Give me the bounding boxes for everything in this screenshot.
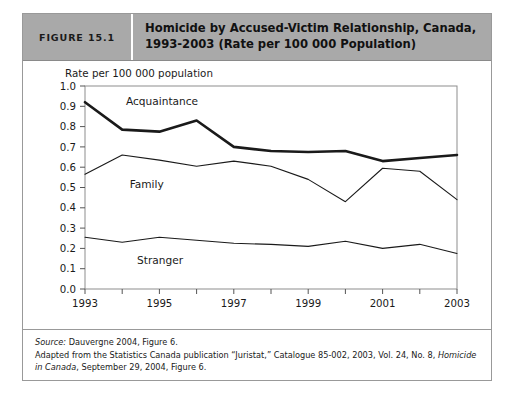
figure-title: Homicide by Accused-Victim Relationship,…: [133, 14, 491, 60]
source-line: Source: Dauvergne 2004, Figure 6.: [35, 337, 479, 349]
adapted-text-part-2: , September 29, 2004, Figure 6.: [76, 362, 206, 372]
y-tick-label: 0.9: [60, 101, 76, 112]
figure-title-line-2: 1993-2003 (Rate per 100 000 Population): [145, 37, 481, 53]
y-tick-label: 0.7: [60, 142, 76, 153]
figure-number-label: FIGURE 15.1: [23, 14, 133, 60]
x-tick-label: 1993: [72, 298, 98, 309]
x-tick-label: 2001: [370, 298, 396, 309]
x-tick-label: 1999: [295, 298, 321, 309]
series-line-stranger: [85, 237, 457, 253]
figure-container: FIGURE 15.1 Homicide by Accused-Victim R…: [22, 13, 492, 381]
figure-footer: Source: Dauvergne 2004, Figure 6. Adapte…: [23, 329, 491, 380]
series-label-stranger: Stranger: [137, 254, 184, 266]
x-axis-ticks: 199319951997199920012003: [72, 289, 470, 309]
series-label-acquaintance: Acquaintance: [126, 95, 198, 107]
y-tick-label: 0.2: [60, 243, 76, 254]
figure-header: FIGURE 15.1 Homicide by Accused-Victim R…: [23, 14, 491, 61]
line-chart-svg: 0.00.10.20.30.40.50.60.70.80.91.0 199319…: [23, 61, 491, 331]
adapted-from-line: Adapted from the Statistics Canada publi…: [35, 350, 479, 374]
y-tick-label: 0.5: [60, 182, 76, 193]
y-axis-ticks: 0.00.10.20.30.40.50.60.70.80.91.0: [60, 81, 85, 295]
y-tick-label: 0.6: [60, 162, 76, 173]
y-tick-label: 0.4: [60, 202, 76, 213]
y-tick-label: 0.8: [60, 121, 76, 132]
series-line-acquaintance: [85, 102, 457, 161]
source-label: Source:: [35, 337, 66, 347]
y-tick-label: 0.1: [60, 263, 76, 274]
y-tick-label: 1.0: [60, 81, 76, 92]
source-value: Dauvergne 2004, Figure 6.: [66, 337, 178, 347]
adapted-text-part-1: Adapted from the Statistics Canada publi…: [35, 350, 438, 360]
x-tick-label: 1995: [146, 298, 172, 309]
figure-title-line-1: Homicide by Accused-Victim Relationship,…: [145, 21, 481, 37]
x-tick-label: 1997: [221, 298, 247, 309]
chart-area: Rate per 100 000 population 0.00.10.20.3…: [23, 61, 491, 331]
y-tick-label: 0.0: [60, 284, 76, 295]
y-tick-label: 0.3: [60, 223, 76, 234]
x-tick-label: 2003: [444, 298, 470, 309]
series-label-family: Family: [130, 178, 164, 190]
